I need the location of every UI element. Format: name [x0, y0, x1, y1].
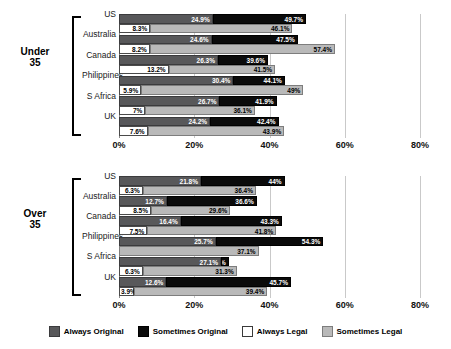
bar-value-label: 57.4%: [314, 45, 332, 52]
bar-value-label: 7%: [133, 107, 142, 114]
bar-row-original: 21.8%44%: [119, 176, 420, 186]
bar-segment-always-original: 27.1%: [119, 257, 221, 267]
legend-swatch-icon: [242, 326, 253, 337]
group-label-under-35: Under 35: [2, 46, 68, 68]
bar-value-label: 8.3%: [132, 25, 147, 32]
gridline-80: [420, 14, 421, 138]
x-tick-label: 80%: [411, 140, 429, 150]
bar-value-label: 36.1%: [233, 107, 251, 114]
legend-label: Sometimes Legal: [337, 327, 403, 336]
bar-segment-always-original: 16.4%: [119, 216, 181, 226]
bar-segment-always-original: 12.6%: [119, 277, 166, 287]
bar-value-label: 44%: [269, 177, 282, 184]
bar-segment-always-legal: 6.3%: [119, 266, 143, 276]
bar-value-label: 16.4%: [159, 218, 177, 225]
bar-segment-always-legal: 8.5%: [119, 206, 151, 216]
bar-segment-always-original: 25.7%: [119, 237, 216, 247]
legend-swatch-icon: [322, 326, 333, 337]
category-label-canada: Canada: [82, 212, 116, 221]
bar-value-label: 37.1%: [237, 247, 255, 254]
bar-row-legal: 5.9%49%: [119, 85, 420, 95]
bar-segment-sometimes-legal: 37.1%: [119, 246, 259, 256]
bar-value-label: 45.7%: [270, 278, 288, 285]
x-tick-label: 0%: [112, 300, 125, 310]
bar-value-label: 43.3%: [260, 218, 278, 225]
bar-segment-always-original: 24.9%: [119, 14, 213, 24]
x-axis-over-35: 0%20%40%60%80%: [119, 300, 420, 314]
legend-item-sometimes-original[interactable]: Sometimes Original: [138, 326, 228, 337]
bar-value-label: 26.7%: [198, 97, 216, 104]
legend-item-always-original[interactable]: Always Original: [49, 326, 124, 337]
bar-segment-sometimes-original: 29.2%: [221, 257, 229, 267]
x-tick-label: 20%: [185, 140, 203, 150]
bar-segment-sometimes-original: 45.7%: [166, 277, 291, 287]
bar-value-label: 8.2%: [132, 45, 147, 52]
group-label-line2: 35: [2, 57, 68, 68]
bar-segment-always-original: 26.7%: [119, 96, 219, 106]
bar-row-legal: 8.2%57.4%: [119, 44, 420, 54]
legend-item-sometimes-legal[interactable]: Sometimes Legal: [322, 326, 403, 337]
plot-area-under-35: 24.9%49.7%8.3%46.1%24.6%47.5%8.2%57.4%26…: [119, 14, 420, 138]
bar-segment-sometimes-original: 49.7%: [213, 14, 306, 24]
bar-row-original: 16.4%43.3%: [119, 216, 420, 226]
category-label-us: US: [82, 10, 116, 19]
bar-row-original: 26.7%41.9%: [119, 96, 420, 106]
bar-row-legal: 8.3%46.1%: [119, 24, 420, 34]
bar-value-label: 49%: [287, 86, 300, 93]
bar-value-label: 43.9%: [263, 127, 281, 134]
bar-row-legal: 6.3%31.3%: [119, 266, 420, 276]
category-label-philippines: Philippines: [82, 232, 116, 241]
x-tick-label: 60%: [336, 300, 354, 310]
bar-value-label: 49.7%: [285, 15, 303, 22]
group-label-line2: 35: [2, 219, 68, 230]
bar-segment-always-legal: 7.6%: [119, 126, 148, 136]
category-label-australia: Australia: [82, 192, 116, 201]
bar-segment-always-legal: 8.2%: [119, 44, 150, 54]
bar-segment-sometimes-original: 42.4%: [210, 117, 278, 127]
x-tick-label: 80%: [411, 300, 429, 310]
bar-segment-always-original: 30.4%: [119, 76, 233, 86]
bar-segment-always-original: 12.7%: [119, 196, 167, 206]
bar-segment-sometimes-legal: 41.8%: [147, 226, 276, 236]
bar-row-legal: 7.5%41.8%: [119, 226, 420, 236]
legend-label: Always Original: [64, 327, 124, 336]
bar-row-legal: 8.5%29.6%: [119, 206, 420, 216]
bar-value-label: 39.6%: [247, 56, 265, 63]
bar-row-original: 24.6%47.5%: [119, 35, 420, 45]
x-tick-label: 40%: [260, 140, 278, 150]
bar-segment-always-original: 21.8%: [119, 176, 201, 186]
group-label-line1: Under: [2, 46, 68, 57]
bar-row-legal: 0%37.1%: [119, 246, 420, 256]
bar-value-label: 7.6%: [130, 127, 145, 134]
bar-segment-sometimes-legal: 41.5%: [169, 65, 275, 75]
chart-legend: Always OriginalSometimes OriginalAlways …: [0, 320, 451, 342]
bar-value-label: 24.9%: [191, 15, 209, 22]
bar-segment-sometimes-legal: 46.1%: [150, 24, 292, 34]
bar-value-label: 29.6%: [209, 207, 227, 214]
bar-row-legal: 7%36.1%: [119, 106, 420, 116]
bar-row-original: 30.4%44.1%: [119, 76, 420, 86]
bar-value-label: 26.3%: [197, 56, 215, 63]
bar-value-label: 31.3%: [215, 268, 233, 275]
bar-segment-always-original: 26.3%: [119, 55, 218, 65]
gridline-80: [420, 176, 421, 298]
bar-segment-always-legal: 5.9%: [119, 85, 141, 95]
category-label-s-africa: S Africa: [82, 252, 116, 261]
bar-value-label: 7.5%: [129, 227, 144, 234]
bar-segment-sometimes-legal: 36.1%: [145, 106, 254, 116]
bar-row-legal: 13.2%41.5%: [119, 65, 420, 75]
bar-segment-sometimes-original: 44.1%: [233, 76, 285, 86]
category-label-uk: UK: [82, 273, 116, 282]
bar-row-legal: 7.6%43.9%: [119, 126, 420, 136]
category-label-australia: Australia: [82, 30, 116, 39]
grouped-bar-chart: Under 35 USAustraliaCanadaPhilippinesS A…: [0, 0, 451, 349]
bar-segment-sometimes-legal: 57.4%: [150, 44, 335, 54]
bar-value-label: 36.4%: [235, 187, 253, 194]
bar-value-label: 24.6%: [190, 36, 208, 43]
bar-row-original: 24.9%49.7%: [119, 14, 420, 24]
x-tick-label: 20%: [185, 300, 203, 310]
legend-item-always-legal[interactable]: Always Legal: [242, 326, 308, 337]
bar-value-label: 12.7%: [145, 197, 163, 204]
legend-swatch-icon: [138, 326, 149, 337]
x-axis-under-35: 0%20%40%60%80%: [119, 140, 420, 154]
